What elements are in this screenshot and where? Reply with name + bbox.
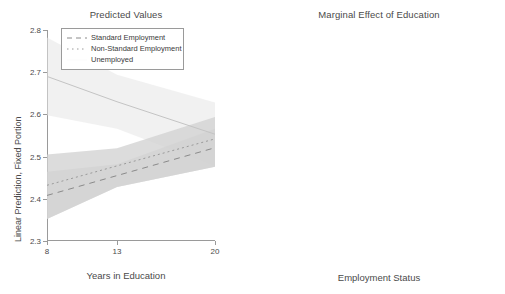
- legend-label-non-standard-employment: Non-Standard Employment: [88, 44, 181, 53]
- x-tick-mark: [215, 241, 216, 245]
- y-tick-mark: [43, 72, 47, 73]
- legend-item-non-standard-employment: Non-Standard Employment: [66, 43, 179, 54]
- panel-predicted-values: Predicted Values Linear Prediction, Fixe…: [0, 0, 252, 294]
- y-tick-label: 2.5: [30, 152, 41, 161]
- x-tick-label: 13: [113, 247, 122, 256]
- legend-label-unemployed: Unemployed: [88, 55, 133, 64]
- left-y-axis-title: Linear Prediction, Fixed Portion: [13, 116, 23, 242]
- x-tick-label: 8: [45, 247, 49, 256]
- y-tick-label: 2.3: [30, 237, 41, 246]
- dotted-line-key-icon: [66, 43, 88, 54]
- y-tick-label: 2.7: [30, 68, 41, 77]
- x-tick-mark: [47, 241, 48, 245]
- y-tick-mark: [43, 199, 47, 200]
- y-tick-label: 2.6: [30, 110, 41, 119]
- right-panel-title: Marginal Effect of Education: [253, 9, 505, 20]
- x-tick-label: 20: [211, 247, 220, 256]
- legend-item-standard-employment: Standard Employment: [66, 32, 179, 43]
- right-x-axis-title: Employment Status: [253, 272, 505, 283]
- y-tick-label: 2.4: [30, 194, 41, 203]
- legend-box: Standard Employment Non-Standard Employm…: [61, 28, 184, 70]
- y-tick-mark: [43, 114, 47, 115]
- blank-line-key-icon: [66, 54, 88, 65]
- x-tick-mark: [117, 241, 118, 245]
- left-panel-title: Predicted Values: [0, 9, 252, 20]
- left-x-axis-title: Years in Education: [0, 270, 252, 281]
- panel-marginal-effect: Marginal Effect of Education Effects on …: [253, 0, 505, 294]
- legend-label-standard-employment: Standard Employment: [88, 33, 165, 42]
- dashed-line-key-icon: [66, 32, 88, 43]
- legend-item-unemployed: Unemployed: [66, 54, 179, 65]
- y-tick-mark: [43, 157, 47, 158]
- y-tick-label: 2.8: [30, 26, 41, 35]
- y-tick-mark: [43, 30, 47, 31]
- figure-container: Predicted Values Linear Prediction, Fixe…: [0, 0, 505, 294]
